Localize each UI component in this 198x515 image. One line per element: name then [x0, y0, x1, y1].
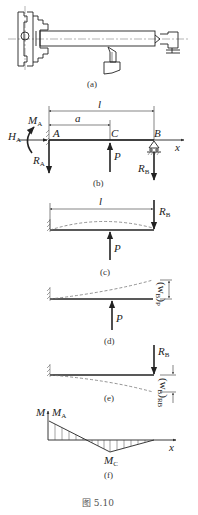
- panel-d: (wB)P P (d): [47, 280, 172, 346]
- caption-e: (e): [104, 393, 114, 403]
- caption-d: (d): [104, 336, 115, 346]
- point-A: A: [52, 127, 60, 139]
- panel-c: l RB P (c): [47, 195, 171, 277]
- axis-x-label: x: [174, 141, 180, 153]
- axis-x-label: x: [168, 441, 174, 453]
- caption-b: (b): [93, 178, 104, 188]
- panel-a-lathe: (a): [8, 6, 190, 89]
- force-RB-label: RB: [157, 345, 170, 359]
- force-RA-label: RA: [32, 154, 45, 168]
- figure-5-10: (a) l a HA MA RA A C B x: [0, 0, 198, 515]
- force-RB-label: RB: [137, 162, 150, 176]
- fixed-support-icon: [47, 219, 50, 232]
- force-P-label: P: [113, 150, 121, 162]
- figure-caption: 图 5.10: [82, 498, 114, 508]
- deflection-curve: [50, 375, 153, 392]
- moment-MC-label: MC: [103, 454, 118, 468]
- moment-diagram-line: [49, 421, 154, 452]
- panel-e: RB (wB)RB (e): [47, 345, 176, 408]
- deflection-label: (wB)RB: [156, 378, 170, 408]
- caption-c: (c): [100, 267, 110, 277]
- moment-hatching: [55, 424, 145, 452]
- caption-f: (f): [104, 470, 113, 480]
- panel-b-beam: l a HA MA RA A C B x P: [7, 98, 184, 188]
- force-HA-label: HA: [7, 130, 21, 144]
- dim-a-label: a: [75, 112, 81, 124]
- point-C: C: [111, 127, 119, 139]
- deflection-curve: [50, 280, 153, 299]
- panel-f-moment-diagram: M x MA MC (f): [35, 406, 176, 480]
- fixed-support-icon: [47, 287, 50, 301]
- axis-M-label: M: [35, 406, 46, 418]
- moment-MA-label: MA: [27, 114, 42, 128]
- force-RB-label: RB: [158, 205, 171, 219]
- force-P-label: P: [115, 312, 123, 324]
- tool-holder: [104, 62, 120, 74]
- force-P-label: P: [113, 242, 121, 254]
- dim-l-label: l: [98, 98, 101, 110]
- dim-l-label: l: [99, 195, 102, 207]
- tailstock-icon: [160, 32, 178, 48]
- deflection-label: (wB)P: [154, 282, 168, 306]
- deflection-curve: [50, 221, 153, 230]
- point-B: B: [154, 127, 161, 139]
- caption-a: (a): [87, 79, 97, 89]
- moment-MA-label: MA: [51, 406, 66, 420]
- workpiece-shaft: [40, 31, 155, 46]
- fixed-support-icon: [47, 364, 50, 377]
